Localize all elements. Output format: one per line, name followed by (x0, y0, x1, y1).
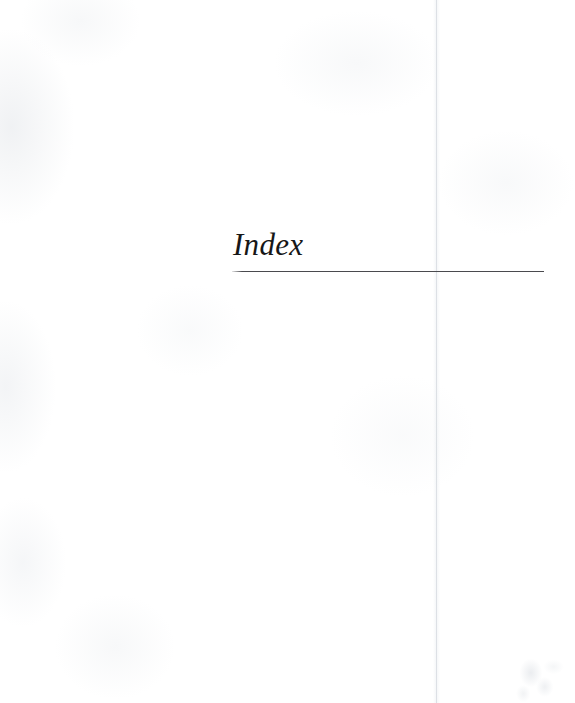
index-heading-block: Index (232, 228, 544, 262)
scan-smudge-artifact (512, 636, 575, 703)
page-gutter-line (436, 0, 437, 703)
index-page: Index (0, 0, 575, 703)
page-gutter-halo (433, 0, 440, 703)
page-title: Index (232, 228, 544, 262)
paper-texture (0, 0, 575, 703)
title-divider-rule (232, 271, 544, 272)
